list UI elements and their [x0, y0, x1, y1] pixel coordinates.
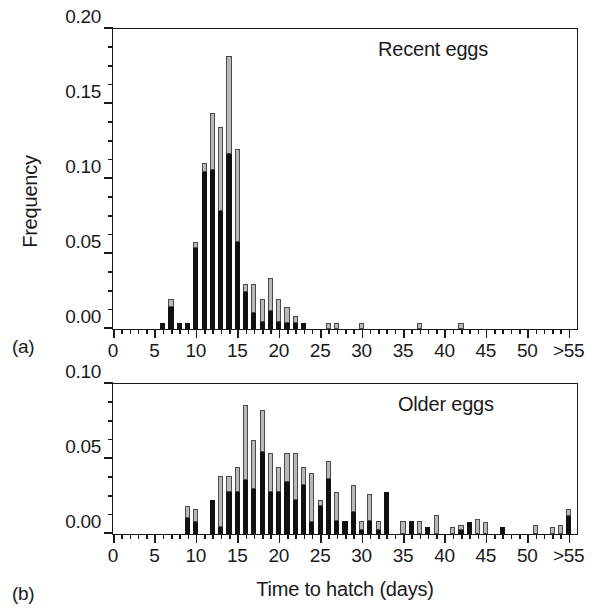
x-axis-tick-major — [154, 534, 156, 543]
x-axis-tick-minor — [138, 534, 140, 539]
x-axis-tick-label: >55 — [553, 340, 584, 362]
x-axis-tick-label: 25 — [310, 340, 331, 362]
x-axis-tick-minor — [270, 534, 272, 539]
histogram-bar — [359, 521, 364, 535]
x-axis-tick-minor — [328, 534, 330, 539]
x-axis-tick-major — [113, 329, 115, 338]
bar-segment-gray — [458, 525, 463, 530]
x-axis-tick-minor — [171, 329, 173, 334]
bar-segment-gray — [417, 521, 422, 535]
bar-segment-gray — [293, 316, 298, 324]
bar-segment-gray — [226, 56, 231, 154]
bar-segment-gray — [483, 522, 488, 534]
y-axis-tick-label: 0.10 — [65, 361, 101, 383]
x-axis-tick-minor — [536, 534, 538, 539]
bar-segment-black — [268, 492, 273, 534]
x-axis-tick-minor — [436, 534, 438, 539]
x-axis-tick-minor — [461, 329, 463, 334]
x-axis-tick-minor — [229, 329, 231, 334]
panel-b-tag: (b) — [12, 583, 34, 605]
x-axis-tick-label: 20 — [268, 545, 289, 567]
x-axis-tick-minor — [378, 534, 380, 539]
x-axis-tick-minor — [328, 329, 330, 334]
x-axis-tick-major — [486, 329, 488, 338]
bar-segment-black — [193, 248, 198, 329]
bar-segment-gray — [243, 405, 248, 480]
bar-segment-gray — [301, 467, 306, 485]
histogram-bar — [210, 113, 215, 329]
x-axis-tick-minor — [544, 534, 546, 539]
bar-segment-gray — [251, 440, 256, 490]
x-axis-tick-minor — [420, 534, 422, 539]
bar-segment-black — [243, 292, 248, 330]
x-axis-tick-minor — [370, 534, 372, 539]
x-axis-tick-major — [237, 329, 239, 338]
x-axis-tick-minor — [519, 329, 521, 334]
bar-segment-gray — [202, 163, 207, 172]
x-axis-tick-minor — [386, 534, 388, 539]
x-axis-tick-label: >55 — [553, 545, 584, 567]
x-axis-tick-major — [154, 329, 156, 338]
bar-segment-gray — [185, 506, 190, 518]
bar-segment-black — [210, 170, 215, 329]
x-axis-tick-minor — [428, 534, 430, 539]
x-axis-tick-label: 30 — [351, 340, 372, 362]
y-axis-tick-minor — [108, 84, 113, 86]
bar-segment-black — [293, 500, 298, 535]
x-axis-tick-label: 40 — [434, 340, 455, 362]
x-axis-tick-label: 15 — [227, 340, 248, 362]
x-axis-tick-major — [113, 534, 115, 543]
bar-segment-gray — [268, 453, 273, 492]
histogram-bar — [483, 522, 488, 534]
x-axis-tick-minor — [453, 329, 455, 334]
bar-segment-black — [284, 482, 289, 535]
x-axis-tick-minor — [254, 329, 256, 334]
bar-segment-black — [202, 172, 207, 330]
histogram-bar — [376, 521, 381, 535]
bar-segment-gray — [218, 476, 223, 527]
x-axis-tick-major — [444, 329, 446, 338]
bar-segment-gray — [309, 473, 314, 523]
x-axis-tick-label: 5 — [149, 340, 159, 362]
bar-segment-gray — [260, 299, 265, 322]
histogram-bar — [193, 242, 198, 329]
bar-segment-gray — [268, 278, 273, 311]
y-axis-tick-label: 0.20 — [65, 6, 101, 28]
x-axis-tick-minor — [254, 534, 256, 539]
x-axis-tick-major — [196, 534, 198, 543]
bar-segment-gray — [450, 527, 455, 535]
x-axis-tick-minor — [536, 329, 538, 334]
x-axis-tick-minor — [212, 534, 214, 539]
x-axis-tick-minor — [295, 329, 297, 334]
x-axis-tick-major — [362, 329, 364, 338]
y-axis-tick-minor — [108, 514, 113, 516]
bar-segment-gray — [284, 307, 289, 324]
x-axis-tick-minor — [171, 534, 173, 539]
y-axis-tick-major — [104, 532, 113, 534]
histogram-bar — [309, 473, 314, 535]
bar-segment-gray — [351, 485, 356, 512]
bar-segment-gray — [475, 519, 480, 534]
x-axis-tick-label: 0 — [108, 545, 118, 567]
bar-segment-gray — [210, 113, 215, 170]
histogram-bar — [168, 299, 173, 329]
y-axis-tick-minor — [108, 65, 113, 67]
bar-segment-black — [334, 521, 339, 535]
x-axis-tick-minor — [511, 329, 513, 334]
histogram-bar — [500, 527, 505, 535]
x-axis-tick-label: 35 — [393, 340, 414, 362]
y-axis-tick-major — [104, 252, 113, 254]
panel-a-annotation: Recent eggs — [378, 38, 488, 61]
x-axis-tick-label: 10 — [186, 545, 207, 567]
x-axis-tick-minor — [229, 534, 231, 539]
bar-segment-black — [309, 522, 314, 534]
bar-segment-gray — [243, 284, 248, 292]
histogram-bar — [334, 492, 339, 534]
x-axis-tick-minor — [287, 534, 289, 539]
x-axis-tick-minor — [130, 329, 132, 334]
bar-segment-black — [301, 485, 306, 535]
x-axis-tick-minor — [163, 329, 165, 334]
x-axis-tick-minor — [544, 329, 546, 334]
bar-segment-gray — [276, 299, 281, 322]
histogram-bar — [210, 500, 215, 535]
